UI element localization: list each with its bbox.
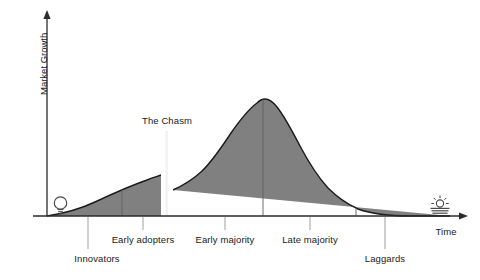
segment-label-late-majority: Late majority bbox=[282, 234, 338, 245]
segment-label-early-majority: Early majority bbox=[196, 234, 255, 245]
lightbulb-icon bbox=[54, 197, 66, 214]
segment-label-laggards: Laggards bbox=[365, 253, 405, 264]
y-axis-title: Market Growth bbox=[38, 33, 49, 95]
chasm-annotation-label: The Chasm bbox=[142, 115, 192, 126]
adoption-lifecycle-chart: Market Growth Time The Chasm Innovators … bbox=[0, 0, 480, 280]
y-axis-arrowhead bbox=[43, 10, 50, 19]
chasm-leader-line bbox=[166, 131, 168, 217]
x-axis-title: Time bbox=[435, 226, 456, 237]
segment-label-early-adopters: Early adopters bbox=[112, 234, 175, 245]
x-axis-arrowhead bbox=[459, 212, 468, 219]
segment-label-innovators: Innovators bbox=[74, 253, 119, 264]
sunset-icon bbox=[431, 195, 450, 213]
